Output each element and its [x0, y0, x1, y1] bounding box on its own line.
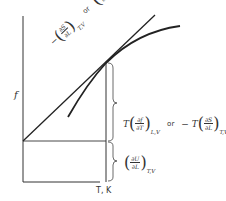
x-axis-label: T, K [96, 186, 111, 195]
force-curve [68, 26, 180, 117]
lower-brace-label: (∂U∂L)T,V [124, 152, 155, 174]
slope-connector: or [81, 4, 92, 15]
lower-brace [108, 142, 117, 181]
y-axis-label: f [14, 89, 18, 100]
diagram-canvas [0, 0, 226, 201]
lower-term1-fraction: ∂U∂L [130, 155, 140, 170]
upper-term2-fraction: ∂S∂L [204, 116, 213, 131]
upper-brace [108, 63, 117, 141]
upper-term1-fraction: ∂f∂T [135, 116, 144, 131]
upper-brace-label: T(∂f∂T)L,V or − T(∂S∂L)T,V [123, 113, 226, 135]
